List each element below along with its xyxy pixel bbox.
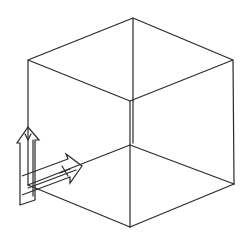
right-arrow	[22, 154, 82, 195]
diagram-canvas	[0, 0, 245, 235]
cube-bottom-left-edge	[28, 185, 130, 227]
up-arrow-base	[20, 200, 35, 205]
right-arrow-outline	[22, 154, 82, 195]
cube-inner-right-edge	[130, 145, 234, 184]
cube-diagram	[0, 0, 245, 235]
cube-top-face	[28, 18, 233, 101]
cube-inner-left-edge	[28, 145, 130, 185]
cube	[28, 18, 234, 227]
cube-bottom-right-edge	[130, 184, 234, 227]
cube-right-edge	[233, 60, 234, 184]
